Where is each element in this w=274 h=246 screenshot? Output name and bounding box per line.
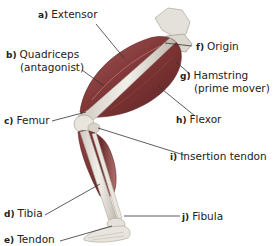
label-fibula: j)Fibula (182, 210, 223, 223)
label-tibia: d)Tibia (4, 207, 43, 220)
label-hamstring: g)Hamstring (prime mover) (180, 69, 270, 94)
label-tendon: e)Tendon (4, 233, 55, 246)
label-femur: c)Femur (4, 114, 50, 127)
label-quadriceps: b)Quadriceps (antagonist) (6, 48, 84, 73)
label-insertion-tendon: i)Insertion tendon (170, 150, 267, 163)
leg-muscle-diagram: a)Extensor b)Quadriceps (antagonist) c)F… (0, 0, 274, 246)
foot-bones (84, 218, 130, 242)
label-origin: f)Origin (196, 40, 239, 53)
label-flexor: h)Flexor (176, 113, 221, 126)
label-extensor: a)Extensor (38, 8, 97, 21)
